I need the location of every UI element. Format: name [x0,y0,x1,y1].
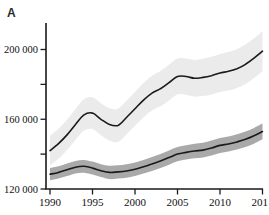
chart-panel: A 120 000160 000200 00019901995200020052… [0,0,268,215]
y-axis-tick-label: 160 000 [4,114,38,125]
x-axis-tick-label: 1995 [82,196,105,208]
x-axis-tick-label: 2015 [252,196,269,208]
panel-label: A [7,7,16,19]
line-chart: 120 000160 000200 0001990199520002005201… [0,0,268,215]
x-axis-tick-label: 2005 [167,196,190,208]
x-axis-tick-label: 2000 [124,196,147,208]
y-axis-tick-label: 120 000 [4,184,38,195]
y-axis-tick-label: 200 000 [4,44,38,55]
x-axis-tick-label: 2010 [209,196,232,208]
x-axis-tick-label: 1990 [39,196,62,208]
